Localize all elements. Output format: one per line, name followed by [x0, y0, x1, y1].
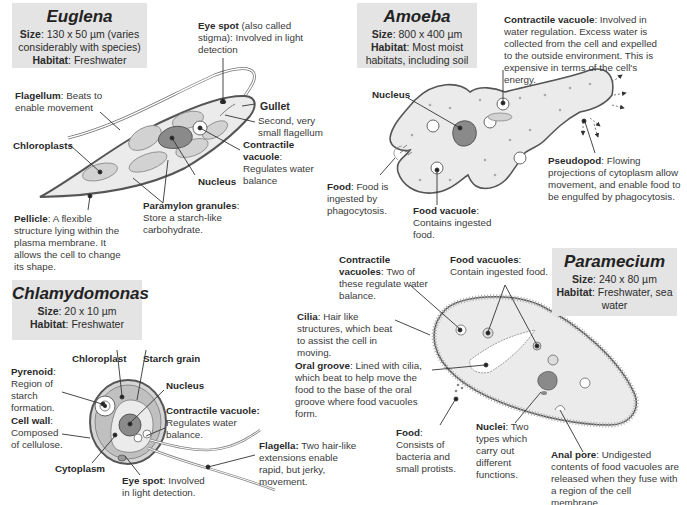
amoeba-label-food-vacuole: Food vacuole: Contains ingested food. [413, 205, 513, 241]
euglena-size: Size: 130 x 50 µm (varies considerably w… [12, 28, 147, 54]
euglena-title: Euglena [12, 6, 147, 28]
amoeba-label-nucleus: Nucleus [372, 89, 410, 101]
paramecium-habitat: Habitat: Freshwater, sea water [552, 286, 677, 312]
chlamydomonas-label-chloroplast: Chloroplast [72, 353, 126, 365]
chlamydomonas-habitat: Habitat: Freshwater [12, 318, 142, 331]
paramecium-label-food-vacuoles: Food vacuoles: Contain ingested food. [450, 254, 555, 278]
euglena-label-pellicle: Pellicle: A flexible structure lying wit… [14, 213, 129, 273]
euglena-habitat: Habitat: Freshwater [12, 54, 147, 67]
amoeba-title: Amoeba [357, 6, 477, 28]
chlamydomonas-label-contractile-vacuole: Contractile vacuole: Regulates water bal… [166, 405, 266, 441]
euglena-label-paramylon: Paramylon granules: Store a starch-like … [143, 200, 243, 236]
paramecium-label-anal-pore: Anal pore: Undigested contents of food v… [551, 449, 681, 505]
paramecium-label-contractile-vacuoles: Contractile vacuoles: Two of these regul… [339, 254, 434, 302]
paramecium-size: Size: 240 x 80 µm [552, 273, 677, 286]
euglena-info-box: Euglena Size: 130 x 50 µm (varies consid… [12, 3, 147, 68]
chlamydomonas-label-cytoplasm: Cytoplasm [55, 463, 105, 475]
paramecium-label-nuclei: Nuclei: Two types which carry out differ… [476, 421, 548, 481]
chlamydomonas-label-eye-spot: Eye spot: Involved in light detection. [122, 475, 212, 499]
chlamydomonas-info-box: Chlamydomonas Size: 20 x 10 µm Habitat: … [12, 280, 142, 340]
amoeba-label-pseudopod: Pseudopod: Flowing projections of cytopl… [548, 155, 683, 203]
protist-diagram: Euglena Size: 130 x 50 µm (varies consid… [0, 0, 687, 505]
paramecium-info-box: Paramecium Size: 240 x 80 µm Habitat: Fr… [552, 248, 677, 316]
euglena-label-contractile-vacuole: Contractile vacuole: Regulates water bal… [243, 139, 323, 187]
euglena-label-nucleus: Nucleus [198, 176, 236, 188]
paramecium-title: Paramecium [552, 251, 677, 273]
chlamydomonas-label-starch-grain: Starch grain [143, 353, 200, 365]
chlamydomonas-label-flagella: Flagella: Two hair-like extensions enabl… [259, 440, 364, 488]
euglena-label-second-flagellum: Second, very small flagellum [258, 115, 328, 139]
amoeba-habitat: Habitat: Most moist habitats, including … [357, 41, 477, 67]
paramecium-label-food: Food: Consists of bacteria and small pro… [396, 427, 461, 475]
chlamydomonas-label-cell-wall: Cell wall: Composed of cellulose. [11, 415, 66, 451]
amoeba-label-contractile-vacuole: Contractile vacuole: Involved in water r… [504, 14, 659, 86]
paramecium-drawing [434, 297, 636, 425]
euglena-label-eye-spot: Eye spot (also called stigma): Involved … [198, 20, 308, 56]
chlamydomonas-label-pyrenoid: Pyrenoid: Region of starch formation. [11, 366, 81, 414]
euglena-label-flagellum: Flagellum: Beats to enable movement [15, 90, 105, 114]
chlamydomonas-size: Size: 20 x 10 µm [12, 305, 142, 318]
amoeba-info-box: Amoeba Size: 800 x 400 µm Habitat: Most … [357, 3, 477, 68]
chlamydomonas-title: Chlamydomonas [12, 283, 142, 305]
euglena-label-gullet: Gullet [260, 100, 290, 113]
chlamydomonas-label-nucleus: Nucleus [166, 380, 204, 392]
amoeba-label-food: Food: Food is ingested by phagocytosis. [327, 181, 397, 217]
paramecium-label-oral-groove: Oral groove: Lined with cilia, which bea… [295, 360, 430, 420]
amoeba-size: Size: 800 x 400 µm [357, 28, 477, 41]
paramecium-label-cilia: Cilia: Hair like structures, which beat … [297, 311, 402, 359]
euglena-label-chloroplasts: Chloroplasts [13, 140, 73, 152]
